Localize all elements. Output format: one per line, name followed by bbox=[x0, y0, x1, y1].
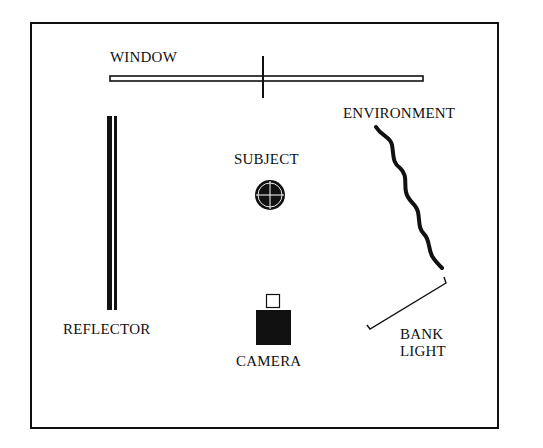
subject-icon bbox=[255, 180, 285, 210]
environment-icon bbox=[376, 127, 442, 268]
reflector-icon bbox=[107, 116, 117, 310]
lighting-diagram bbox=[0, 0, 543, 448]
camera-icon bbox=[256, 295, 291, 346]
environment-label: ENVIRONMENT bbox=[343, 106, 455, 122]
bank-label: BANK bbox=[400, 327, 443, 343]
subject-label: SUBJECT bbox=[234, 152, 299, 168]
window-label: WINDOW bbox=[110, 50, 177, 66]
light-label: LIGHT bbox=[400, 344, 446, 360]
camera-label: CAMERA bbox=[236, 354, 301, 370]
reflector-label: REFLECTOR bbox=[63, 322, 150, 338]
bank-light-icon bbox=[367, 277, 446, 329]
